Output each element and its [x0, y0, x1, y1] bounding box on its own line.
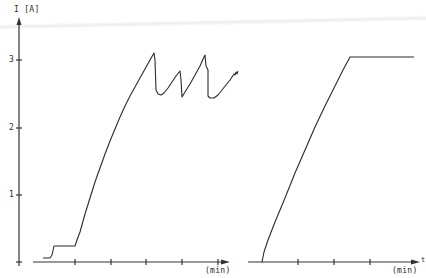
- x-unit-label-right: (min): [392, 266, 418, 275]
- y-axis-arrow-icon: [17, 17, 22, 25]
- series-right-curve: [262, 57, 414, 262]
- y-axis-label: I [A]: [14, 5, 40, 14]
- y-tick-label-2: 2: [9, 123, 14, 132]
- y-tick-label-3: 3: [9, 55, 14, 64]
- y-tick-label-1: 1: [9, 190, 14, 199]
- x-axis-right-arrow-icon: [411, 260, 420, 265]
- x-unit-label-left: (min): [205, 266, 231, 275]
- x-axis-right-t-mark: t: [421, 256, 426, 264]
- series-left-curve: [43, 53, 238, 258]
- x-axis-left-arrow-icon: [221, 260, 230, 265]
- chart-figure: [0, 0, 426, 278]
